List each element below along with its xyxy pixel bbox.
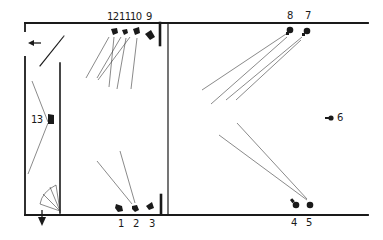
floor-plan-diagram: 1 2 3 4 5 6 7 8 9 10 11 12 13 xyxy=(0,0,383,240)
camera-label-6: 6 xyxy=(337,113,343,123)
camera-glyphs xyxy=(48,27,334,212)
camera-label-3: 3 xyxy=(149,219,155,229)
camera-5-icon xyxy=(307,202,314,209)
camera-3-icon xyxy=(146,202,154,210)
floor-plan-drawing xyxy=(0,0,383,240)
camera-label-10: 10 xyxy=(130,12,142,22)
camera-label-8: 8 xyxy=(287,11,293,21)
camera-13-icon xyxy=(48,114,54,124)
camera-label-9: 9 xyxy=(146,12,152,22)
camera-10-icon xyxy=(133,27,140,35)
diagonal-partition xyxy=(40,36,64,66)
camera-label-13: 13 xyxy=(31,115,43,125)
walls xyxy=(25,23,368,215)
camera-label-1: 1 xyxy=(118,219,124,229)
arrows xyxy=(28,40,46,226)
camera-label-11: 11 xyxy=(119,12,131,22)
left-arrow-icon xyxy=(28,40,34,46)
camera-label-12: 12 xyxy=(107,12,119,22)
down-arrow-icon xyxy=(38,217,46,226)
camera-4-icon xyxy=(293,202,300,209)
camera-label-7: 7 xyxy=(305,11,311,21)
camera-1-icon xyxy=(115,204,123,212)
fan-sweep xyxy=(40,185,60,211)
camera-12-icon xyxy=(111,28,118,35)
camera-label-2: 2 xyxy=(133,219,139,229)
camera-11-icon xyxy=(122,29,128,35)
camera-label-4: 4 xyxy=(291,218,297,228)
camera-label-5: 5 xyxy=(306,218,312,228)
camera-2-icon xyxy=(132,205,139,212)
camera-9-icon xyxy=(145,30,155,40)
